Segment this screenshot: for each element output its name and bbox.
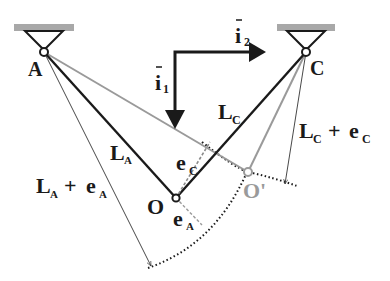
label-lc-plus-ec: L C + e C bbox=[299, 118, 371, 146]
pin-c-icon bbox=[302, 48, 310, 56]
svg-text:e: e bbox=[86, 173, 96, 198]
svg-text:e: e bbox=[349, 118, 359, 143]
svg-text:1: 1 bbox=[163, 82, 169, 96]
label-i2: i 2 bbox=[235, 20, 250, 49]
svg-text:i: i bbox=[235, 23, 241, 48]
svg-text:e: e bbox=[176, 150, 186, 175]
svg-text:A: A bbox=[124, 154, 132, 166]
svg-text:+: + bbox=[328, 118, 341, 143]
label-la-plus-ea: L A + e A bbox=[36, 173, 107, 200]
cable-c-deformed bbox=[248, 52, 306, 172]
svg-text:C: C bbox=[189, 164, 198, 178]
support-c bbox=[277, 24, 335, 50]
node-o-prime-icon bbox=[244, 168, 252, 176]
label-a: A bbox=[28, 58, 43, 80]
arrowhead-i2-icon bbox=[249, 42, 266, 62]
support-a bbox=[14, 24, 74, 50]
svg-text:A: A bbox=[186, 220, 194, 232]
unit-vector-axes bbox=[165, 42, 266, 129]
svg-text:A: A bbox=[50, 188, 58, 200]
svg-text:i: i bbox=[155, 70, 161, 95]
label-ec: e C bbox=[176, 150, 198, 178]
svg-text:C: C bbox=[362, 132, 371, 146]
label-lc: L C bbox=[218, 99, 241, 127]
label-c: C bbox=[310, 57, 324, 79]
label-i1: i 1 bbox=[155, 67, 169, 96]
label-o-prime: O' bbox=[243, 178, 266, 203]
svg-text:C: C bbox=[313, 132, 322, 146]
svg-text:A: A bbox=[99, 188, 107, 200]
support-bar-a bbox=[14, 24, 74, 31]
node-o-icon bbox=[172, 194, 179, 201]
label-ea: e A bbox=[173, 206, 194, 232]
arrowhead-i1-icon bbox=[165, 110, 185, 129]
svg-text:C: C bbox=[232, 113, 241, 127]
pin-a-icon bbox=[40, 48, 48, 56]
svg-text:+: + bbox=[64, 173, 77, 198]
label-o: O bbox=[147, 194, 164, 219]
svg-text:L: L bbox=[36, 173, 51, 198]
svg-text:2: 2 bbox=[244, 35, 250, 49]
svg-text:L: L bbox=[110, 140, 125, 165]
support-bar-c bbox=[277, 24, 335, 31]
svg-text:L: L bbox=[218, 99, 233, 124]
svg-text:e: e bbox=[173, 206, 183, 231]
cable-diagram: A C O O' i 2 i 1 L C L A e C e A L A + e… bbox=[0, 0, 390, 281]
svg-text:L: L bbox=[299, 118, 314, 143]
